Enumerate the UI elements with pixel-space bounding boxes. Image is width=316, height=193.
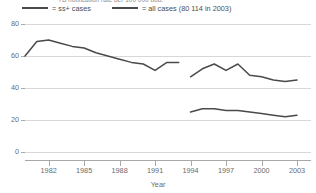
x-tick-label-1985: 1985 <box>67 167 101 175</box>
series-line-1 <box>191 64 297 82</box>
series-line-0 <box>25 40 179 70</box>
x-tick-label-2000: 2000 <box>245 167 279 175</box>
y-tick-label-80: 80 <box>1 20 19 28</box>
plot-svg <box>0 0 316 193</box>
x-tick-label-1994: 1994 <box>174 167 208 175</box>
x-axis-title: Year <box>0 181 316 189</box>
x-tick-label-1988: 1988 <box>103 167 137 175</box>
x-tick-label-2003: 2003 <box>280 167 314 175</box>
plot-area <box>0 0 316 193</box>
y-tick-label-60: 60 <box>1 52 19 60</box>
series-line-2 <box>191 109 297 117</box>
y-tick-label-20: 20 <box>1 116 19 124</box>
y-tick-label-0: 0 <box>1 148 19 156</box>
x-tick-label-1982: 1982 <box>32 167 66 175</box>
x-tick-label-1991: 1991 <box>138 167 172 175</box>
chart-container: TB notification rate per 100 000 pop. = … <box>0 0 316 193</box>
x-tick-label-1997: 1997 <box>209 167 243 175</box>
y-tick-label-40: 40 <box>1 84 19 92</box>
